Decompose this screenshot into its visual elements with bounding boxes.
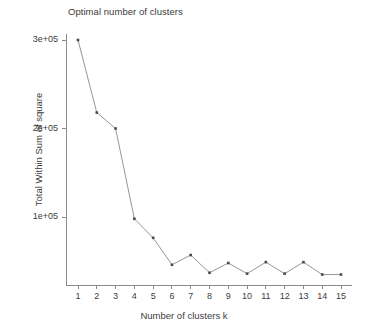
- x-tick-label: 9: [219, 291, 237, 301]
- data-line: [78, 40, 341, 275]
- data-point: [171, 263, 174, 266]
- x-tick-label: 2: [88, 291, 106, 301]
- x-tick-label: 11: [257, 291, 275, 301]
- x-tick-label: 4: [125, 291, 143, 301]
- plot-area: [0, 0, 368, 333]
- data-point: [265, 261, 268, 264]
- data-point: [321, 273, 324, 276]
- data-point: [227, 262, 230, 265]
- data-point: [152, 237, 155, 240]
- data-point: [133, 217, 136, 220]
- data-point: [189, 254, 192, 257]
- data-point: [95, 111, 98, 114]
- axis-lines: [66, 34, 352, 285]
- y-tick-label: 2e+05: [14, 123, 58, 133]
- data-point: [340, 273, 343, 276]
- x-tick-label: 8: [201, 291, 219, 301]
- data-point: [283, 272, 286, 275]
- x-tick-label: 5: [144, 291, 162, 301]
- x-tick-label: 6: [163, 291, 181, 301]
- data-markers: [77, 39, 343, 276]
- chart-container: Optimal number of clusters Total Within …: [0, 0, 368, 333]
- x-tick-label: 15: [332, 291, 350, 301]
- x-tick-label: 14: [313, 291, 331, 301]
- x-tick-label: 7: [182, 291, 200, 301]
- y-tick-label: 3e+05: [14, 34, 58, 44]
- x-tick-label: 10: [238, 291, 256, 301]
- series-line: [78, 40, 341, 275]
- x-tick-label: 12: [276, 291, 294, 301]
- data-point: [114, 127, 117, 130]
- tick-marks: [62, 40, 341, 289]
- data-point: [246, 272, 249, 275]
- y-tick-label: 1e+05: [14, 211, 58, 221]
- data-point: [302, 261, 305, 264]
- x-tick-label: 1: [69, 291, 87, 301]
- data-point: [77, 39, 80, 42]
- x-tick-label: 13: [294, 291, 312, 301]
- data-point: [208, 271, 211, 274]
- x-tick-label: 3: [107, 291, 125, 301]
